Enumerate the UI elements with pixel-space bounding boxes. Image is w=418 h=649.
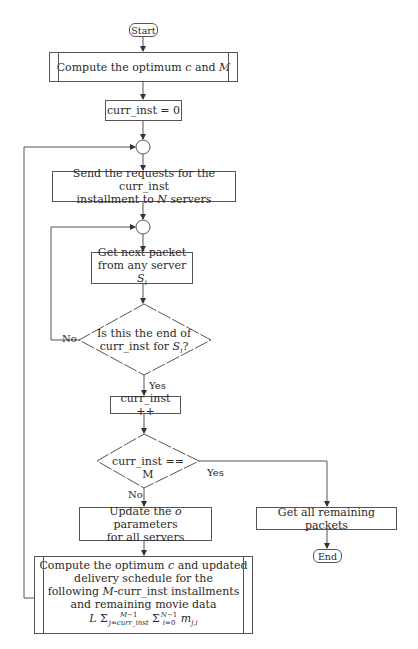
increment-box: curr_inst ++ xyxy=(110,396,181,414)
compute-initial-label: Compute the optimum c and M xyxy=(57,61,231,74)
decision-end-text: Is this the end of curr_inst for Si? xyxy=(94,327,194,358)
decision-last-text: curr_inst == M xyxy=(105,455,191,481)
get-remaining-box: Get all remaining packets xyxy=(256,507,397,530)
decision-end-line1: Is this the end of xyxy=(94,327,194,340)
update-params-line1: Update the o parameters xyxy=(80,505,211,531)
increment-label: curr_inst ++ xyxy=(111,392,180,418)
edge-label-no-1: No xyxy=(62,333,77,345)
compute-updated-process: Compute the optimum c and updated delive… xyxy=(34,556,253,634)
merge-point-outer xyxy=(136,140,150,154)
send-requests-line2: installment to N servers xyxy=(77,193,212,206)
end-label: End xyxy=(318,551,337,562)
compute-initial-process: Compute the optimum c and M xyxy=(49,52,238,82)
compute-updated-line4: and remaining movie data xyxy=(70,598,216,611)
merge-point-inner xyxy=(136,220,150,234)
start-terminal: Start xyxy=(129,23,158,37)
get-remaining-label: Get all remaining packets xyxy=(257,506,396,532)
get-packet-line1: Get next packet xyxy=(98,246,186,259)
init-counter-label: curr_inst = 0 xyxy=(107,104,180,117)
get-packet-line2: from any server Si xyxy=(92,259,192,290)
decision-end-line2: curr_inst for Si? xyxy=(94,340,194,358)
update-params-line2: for all servers xyxy=(107,531,185,544)
init-counter-box: curr_inst = 0 xyxy=(105,100,182,121)
update-params-box: Update the o parameters for all servers xyxy=(79,507,212,541)
edge-label-no-2: No xyxy=(128,489,143,501)
send-requests-line1: Send the requests for the curr_inst xyxy=(53,167,235,193)
compute-updated-line2: delivery schedule for the xyxy=(74,572,213,585)
send-requests-box: Send the requests for the curr_inst inst… xyxy=(52,171,236,202)
compute-updated-formula: L ΣM−1j=curr_inst ΣN−1i=0 mj,i xyxy=(89,611,198,630)
compute-updated-line3: following M-curr_inst installments xyxy=(48,585,240,598)
edge-label-yes-2: Yes xyxy=(207,467,224,479)
start-label: Start xyxy=(131,25,155,36)
decision-last-label: curr_inst == M xyxy=(112,455,184,481)
connector-lines xyxy=(0,0,418,649)
end-terminal: End xyxy=(313,549,342,563)
compute-updated-line1: Compute the optimum c and updated xyxy=(39,559,247,572)
get-packet-box: Get next packet from any server Si xyxy=(91,252,193,284)
edge-label-yes-1: Yes xyxy=(149,380,166,392)
